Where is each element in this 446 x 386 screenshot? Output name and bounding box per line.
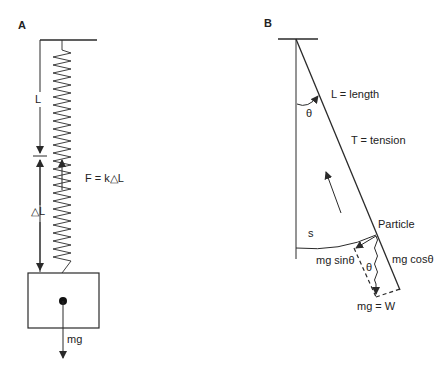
cos-component-label: mg cosθ — [392, 254, 434, 265]
length-label-b: L = length — [331, 89, 379, 100]
tension-label: T = tension — [351, 135, 406, 146]
theta-top-label: θ — [306, 108, 312, 119]
arc-length-label: s — [308, 228, 314, 239]
spring-system — [28, 40, 99, 358]
theta-arc — [297, 96, 318, 105]
spring-force-label: F = k△L — [85, 173, 124, 184]
length-label-a: L — [35, 94, 41, 105]
motion-arrow — [326, 172, 341, 213]
pendulum-string — [296, 39, 400, 290]
weight-label-b: mg = W — [357, 301, 395, 312]
panel-b-label: B — [264, 18, 272, 29]
diagram-canvas — [0, 0, 446, 386]
delta-length-label: △L — [31, 206, 45, 217]
theta-bottom-label: θ — [366, 262, 372, 273]
weight-vector-b — [375, 236, 378, 294]
panel-a-label: A — [18, 20, 26, 31]
weight-label-a: mg — [67, 334, 82, 345]
sin-component-label: mg sinθ — [316, 255, 355, 266]
particle-label: Particle — [378, 219, 415, 230]
spring-coil — [53, 40, 71, 273]
